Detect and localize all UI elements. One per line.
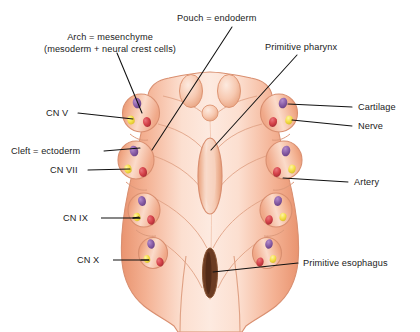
label-cn-x: CN X <box>77 255 99 267</box>
label-primitive-esophagus: Primitive esophagus <box>303 258 388 270</box>
leader-artery <box>283 178 348 182</box>
label-cn-ix: CN IX <box>63 213 88 225</box>
label-cn-v: CN V <box>46 108 68 120</box>
label-arch-line2: (mesoderm + neural crest cells) <box>44 44 176 54</box>
leader-cartilage <box>288 104 352 107</box>
label-cartilage: Cartilage <box>358 102 396 114</box>
label-pouch: Pouch = endoderm <box>177 13 257 25</box>
label-arch-line1: Arch = mesenchyme <box>67 32 153 42</box>
label-cleft: Cleft = ectoderm <box>11 146 80 158</box>
label-artery: Artery <box>354 177 379 189</box>
primitive-pharynx-opening <box>198 138 222 214</box>
leader-nerve <box>292 120 352 126</box>
label-primitive-pharynx: Primitive pharynx <box>265 42 337 54</box>
label-arch: Arch = mesenchyme (mesoderm + neural cre… <box>30 32 190 55</box>
primitive-esophagus-opening <box>203 248 218 298</box>
label-cn-vii: CN VII <box>50 165 78 177</box>
label-nerve: Nerve <box>358 121 383 133</box>
